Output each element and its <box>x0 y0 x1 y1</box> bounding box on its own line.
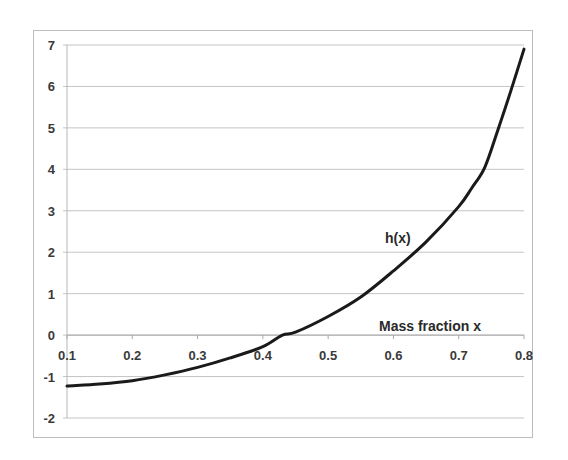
x-tick-label: 0.1 <box>58 348 76 363</box>
x-axis-tick-labels: 0.10.20.30.40.50.60.70.8 <box>58 348 533 363</box>
y-tick-label: 0 <box>48 328 55 343</box>
y-tick-label: 7 <box>48 38 55 53</box>
x-tick-label: 0.6 <box>384 348 402 363</box>
y-tick-label: -1 <box>43 370 55 385</box>
y-tick-label: -2 <box>43 411 55 426</box>
y-tick-label: 4 <box>48 162 56 177</box>
y-tick-label: 1 <box>48 287 55 302</box>
y-tick-label: 5 <box>48 121 55 136</box>
x-tick-label: 0.5 <box>319 348 337 363</box>
x-tick-label: 0.7 <box>450 348 468 363</box>
x-tick-label: 0.2 <box>123 348 141 363</box>
x-axis-title: Mass fraction x <box>379 318 481 334</box>
y-tick-label: 2 <box>48 245 55 260</box>
y-tick-label: 6 <box>48 79 55 94</box>
y-axis-tick-labels: 76543210-1-2 <box>43 38 55 426</box>
x-tick-label: 0.3 <box>189 348 207 363</box>
line-chart: 76543210-1-2 0.10.20.30.40.50.60.70.8 h(… <box>0 0 568 460</box>
y-tick-label: 3 <box>48 204 55 219</box>
x-tick-label: 0.8 <box>515 348 533 363</box>
curve-label: h(x) <box>385 230 411 246</box>
